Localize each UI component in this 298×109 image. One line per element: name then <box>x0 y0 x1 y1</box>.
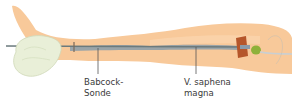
label-line: Babcock- <box>84 77 123 88</box>
label-babcock-sonde: Babcock- Sonde <box>84 77 123 99</box>
probe-bulb <box>251 46 261 55</box>
leg-drawing <box>0 0 298 109</box>
bandage <box>14 36 62 77</box>
label-line: Sonde <box>84 88 123 99</box>
leg-illustration: Babcock- Sonde V. saphena magna <box>0 0 298 109</box>
label-line: V. saphena <box>184 77 231 88</box>
label-v-saphena-magna: V. saphena magna <box>184 77 231 99</box>
label-line: magna <box>184 88 231 99</box>
